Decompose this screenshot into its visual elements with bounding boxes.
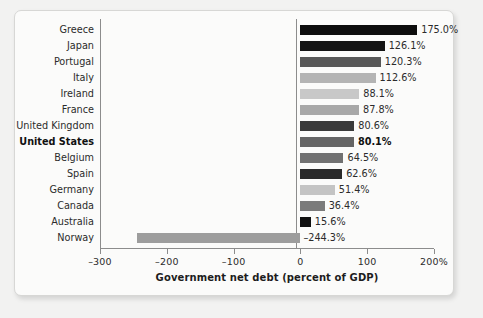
category-label-germany: Germany <box>15 182 94 198</box>
bar-norway <box>137 233 300 243</box>
bar-row: Greece175.0% <box>15 22 455 38</box>
bar-chart: –300–200–1000100200% Greece175.0%Japan12… <box>15 11 455 297</box>
bar-italy <box>300 73 375 83</box>
value-label-ireland: 88.1% <box>363 86 394 102</box>
bar-united-states <box>300 137 354 147</box>
bar-row: United States80.1% <box>15 134 455 150</box>
bar-row: Belgium64.5% <box>15 150 455 166</box>
bar-row: France87.8% <box>15 102 455 118</box>
bar-row: Ireland88.1% <box>15 86 455 102</box>
category-label-japan: Japan <box>15 38 94 54</box>
value-label-france: 87.8% <box>363 102 394 118</box>
x-tick-label: 200% <box>411 256 457 267</box>
category-label-italy: Italy <box>15 70 94 86</box>
bar-canada <box>300 201 324 211</box>
x-tick-label: –200 <box>144 256 190 267</box>
x-tick-label: –100 <box>211 256 257 267</box>
value-label-japan: 126.1% <box>389 38 426 54</box>
x-tick-mark <box>100 249 101 254</box>
bar-row: United Kingdom80.6% <box>15 118 455 134</box>
value-label-canada: 36.4% <box>329 198 360 214</box>
x-axis-line <box>100 248 434 249</box>
value-label-italy: 112.6% <box>380 70 417 86</box>
value-label-belgium: 64.5% <box>347 150 378 166</box>
category-label-portugal: Portugal <box>15 54 94 70</box>
bar-belgium <box>300 153 343 163</box>
x-tick-mark <box>367 249 368 254</box>
category-label-france: France <box>15 102 94 118</box>
category-label-spain: Spain <box>15 166 94 182</box>
value-label-spain: 62.6% <box>346 166 377 182</box>
bar-row: Japan126.1% <box>15 38 455 54</box>
bar-row: Germany51.4% <box>15 182 455 198</box>
category-label-ireland: Ireland <box>15 86 94 102</box>
bar-australia <box>300 217 310 227</box>
bar-portugal <box>300 57 380 67</box>
bar-germany <box>300 185 334 195</box>
bar-france <box>300 105 359 115</box>
x-tick-mark <box>434 249 435 254</box>
value-label-germany: 51.4% <box>339 182 370 198</box>
value-label-australia: 15.6% <box>315 214 346 230</box>
bar-row: Portugal120.3% <box>15 54 455 70</box>
value-label-greece: 175.0% <box>421 22 458 38</box>
chart-card: –300–200–1000100200% Greece175.0%Japan12… <box>14 10 454 296</box>
bar-united-kingdom <box>300 121 354 131</box>
x-tick-label: 0 <box>277 256 323 267</box>
value-label-portugal: 120.3% <box>385 54 422 70</box>
value-label-united-states: 80.1% <box>358 134 392 150</box>
x-tick-mark <box>167 249 168 254</box>
category-label-united-states: United States <box>15 134 94 150</box>
category-label-australia: Australia <box>15 214 94 230</box>
x-tick-label: –300 <box>77 256 123 267</box>
bar-row: Norway–244.3% <box>15 230 455 246</box>
category-label-belgium: Belgium <box>15 150 94 166</box>
x-tick-label: 100 <box>344 256 390 267</box>
bar-spain <box>300 169 342 179</box>
bar-row: Australia15.6% <box>15 214 455 230</box>
category-label-canada: Canada <box>15 198 94 214</box>
x-axis-title: Government net debt (percent of GDP) <box>100 272 434 283</box>
bar-row: Canada36.4% <box>15 198 455 214</box>
x-tick-mark <box>234 249 235 254</box>
bar-japan <box>300 41 384 51</box>
bar-row: Italy112.6% <box>15 70 455 86</box>
value-label-united-kingdom: 80.6% <box>358 118 389 134</box>
x-tick-mark <box>300 249 301 254</box>
category-label-greece: Greece <box>15 22 94 38</box>
bar-greece <box>300 25 417 35</box>
category-label-norway: Norway <box>15 230 94 246</box>
bar-row: Spain62.6% <box>15 166 455 182</box>
bar-ireland <box>300 89 359 99</box>
category-label-united-kingdom: United Kingdom <box>15 118 94 134</box>
value-label-norway: –244.3% <box>303 230 345 246</box>
